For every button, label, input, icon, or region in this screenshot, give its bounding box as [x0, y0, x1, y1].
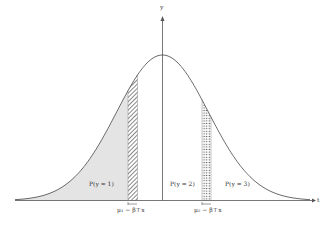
- density-plot: [0, 0, 330, 225]
- y-axis-arrow-icon: [161, 16, 165, 21]
- region-label-p-y2: P(y = 2): [170, 180, 195, 187]
- x-axis-arrow-icon: [312, 199, 316, 203]
- threshold1-hatched-band: [128, 75, 138, 201]
- region-label-p-y3: P(y = 3): [225, 180, 250, 187]
- threshold1-label: μ₁ − β⊤x: [117, 206, 145, 213]
- y-axis-label: y: [160, 3, 163, 10]
- normal-density-figure: y t P(y = 1) P(y = 2) P(y = 3) μ₁ − β⊤x …: [0, 0, 330, 225]
- hatched-area: [128, 75, 138, 201]
- region-label-p-y1: P(y = 1): [89, 180, 114, 187]
- threshold2-label: μ₂ − β⊤x: [194, 206, 222, 213]
- x-axis-label: t: [317, 196, 319, 203]
